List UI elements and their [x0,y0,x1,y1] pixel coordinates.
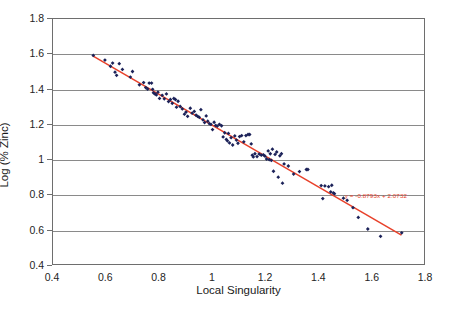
y-tick-label: 1.4 [0,84,44,94]
scatter-point [113,70,117,74]
scatter-point [115,73,119,77]
scatter-point [111,61,115,65]
scatter-point [199,108,203,112]
x-axis-label: Local Singularity [52,284,425,296]
scatter-point [204,114,208,118]
scatter-point [211,128,215,132]
scatter-point [272,169,276,173]
y-tick-label: 0.8 [0,189,44,199]
scatter-point [221,135,225,139]
scatter-point [298,170,302,174]
y-tick-label: 1.6 [0,48,44,58]
scatter-point [131,70,135,74]
scatter-point [121,68,125,72]
x-tick-label: 1.8 [405,271,445,283]
y-tick-label: 0.6 [0,225,44,235]
scatter-point [212,120,216,124]
trendline-equation-label: y = -0.8793x + 2.0732 [345,192,407,199]
x-tick-label: 1.6 [352,271,392,283]
plot-area: y = -0.8793x + 2.0732 [52,18,425,265]
x-tick-label: 1.4 [298,271,338,283]
scatter-point [366,227,370,231]
scatter-point [255,155,259,159]
scatter-point [150,81,154,85]
scatter-point [268,152,272,156]
trendline [93,56,402,235]
scatter-point [356,216,360,220]
scatter-point [281,181,285,185]
scatter-point [330,183,334,187]
scatter-point [158,97,162,101]
scatter-point [379,234,383,238]
scatter-point [282,162,286,166]
scatter-point [276,175,280,179]
scatter-point [286,164,290,168]
scatter-point [186,114,190,118]
chart-frame: Log (% Zinc) 0.40.60.811.21.41.61.8 y = … [0,0,456,300]
scatter-point [117,62,121,66]
scatter-point [266,149,270,153]
y-tick-mark [47,265,52,266]
y-tick-label: 0.4 [0,260,44,270]
x-tick-label: 1.2 [245,271,285,283]
scatter-point [327,185,331,189]
scatter-point [323,184,327,188]
data-layer [53,19,424,264]
scatter-point [231,143,235,147]
y-tick-label: 1.2 [0,119,44,129]
scatter-point [249,142,253,146]
scatter-point [188,106,192,110]
x-tick-label: 0.6 [85,271,125,283]
x-tick-label: 0.8 [139,271,179,283]
figure-container: Log (% Zinc) 0.40.60.811.21.41.61.8 y = … [0,0,456,320]
scatter-point [236,141,240,145]
scatter-point [165,92,169,96]
y-tick-label: 1 [0,154,44,164]
x-tick-label: 1 [192,271,232,283]
x-tick-label: 0.4 [32,271,72,283]
scatter-point [321,197,325,201]
scatter-point [271,147,275,151]
y-tick-label: 1.8 [0,13,44,23]
